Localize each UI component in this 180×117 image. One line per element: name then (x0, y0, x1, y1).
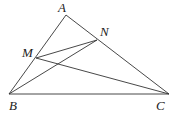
triangle-figure: A B C M N (0, 0, 180, 117)
label-n: N (99, 24, 110, 39)
geometry-diagram: A B C M N (0, 0, 180, 117)
label-c: C (156, 98, 165, 113)
vertex-labels: A B C M N (9, 0, 165, 113)
label-a: A (57, 0, 66, 15)
label-m: M (21, 45, 34, 60)
segment-mc (36, 58, 169, 94)
segment-mn (36, 40, 97, 58)
segments (9, 15, 169, 94)
segment-ab (9, 15, 66, 94)
segment-ac (66, 15, 169, 94)
label-b: B (9, 98, 17, 113)
